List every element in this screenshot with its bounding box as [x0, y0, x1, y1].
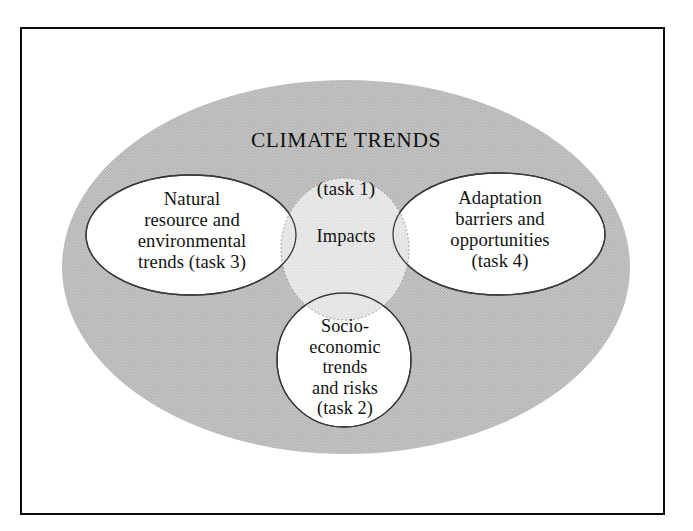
- set-label-natural-resource: Natural resource and environmental trend…: [92, 188, 292, 272]
- set-label-socio-economic: Socio- economic trends and risks (task 2…: [282, 316, 408, 419]
- figure-root: CLIMATE TRENDS (task 1) Natural resource…: [0, 0, 693, 531]
- set-label-adaptation-barriers: Adaptation barriers and opportunities (t…: [400, 187, 600, 271]
- diagram-title-text: CLIMATE TRENDS: [146, 128, 546, 152]
- intersection-label-impacts: Impacts: [296, 226, 396, 247]
